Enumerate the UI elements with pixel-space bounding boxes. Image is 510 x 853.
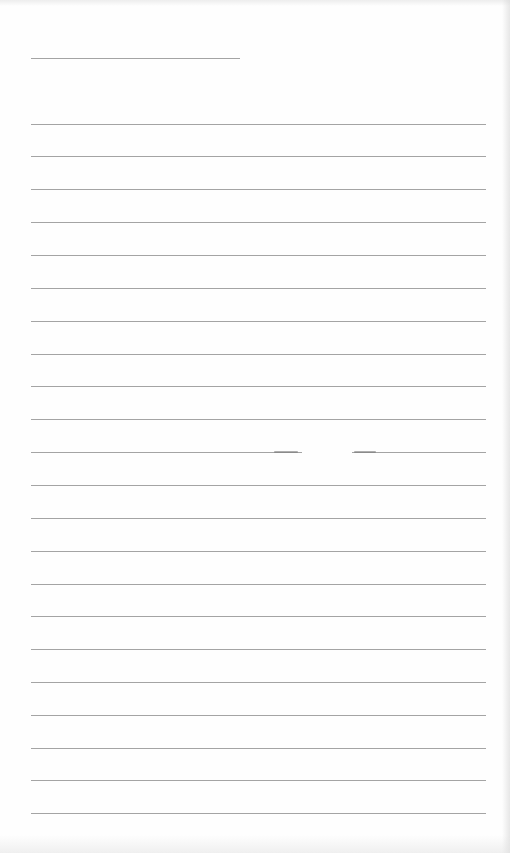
ruled-line: [31, 682, 486, 683]
ruled-line: [31, 748, 486, 749]
ruled-line: [31, 222, 486, 223]
ink-smudge: [274, 451, 298, 453]
ruled-line: [31, 321, 486, 322]
scan-right-edge: [502, 0, 510, 853]
ruled-line: [31, 485, 486, 486]
ruled-line: [31, 419, 486, 420]
line-gap: [302, 451, 352, 454]
header-rule: [31, 58, 240, 59]
scan-bottom-edge: [0, 835, 510, 853]
ruled-line: [31, 156, 486, 157]
ruled-line: [31, 255, 486, 256]
lined-paper-page: [0, 0, 510, 853]
ruled-line: [31, 584, 486, 585]
ruled-line: [31, 288, 486, 289]
ruled-line: [31, 354, 486, 355]
ruled-line: [31, 715, 486, 716]
ruled-line: [31, 780, 486, 781]
ruled-line: [31, 518, 486, 519]
ruled-line: [31, 189, 486, 190]
ruled-line: [31, 386, 486, 387]
ruled-line: [31, 649, 486, 650]
ruled-line: [31, 813, 486, 814]
ink-smudge: [354, 451, 376, 453]
scan-top-edge: [0, 0, 510, 6]
ruled-line: [31, 124, 486, 125]
ruled-line: [31, 616, 486, 617]
ruled-line: [31, 551, 486, 552]
ruled-line: [31, 452, 486, 453]
